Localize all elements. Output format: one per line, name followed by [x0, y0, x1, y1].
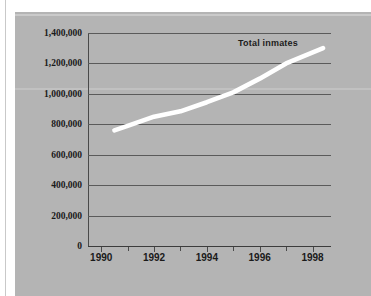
chart-figure: 1,400,0001,200,0001,000,000800,000600,00… [0, 0, 371, 296]
y-axis-tick-labels: 1,400,0001,200,0001,000,000800,000600,00… [18, 33, 82, 247]
x-axis-tick-label: 1998 [301, 252, 323, 264]
y-axis-tick-label: 1,000,000 [44, 89, 82, 99]
y-axis-tick-label: 0 [77, 241, 82, 251]
x-axis-tick-label: 1990 [90, 252, 112, 264]
x-axis-tick-minor [128, 247, 129, 251]
x-axis-tick-minor [180, 247, 181, 251]
page-edge-rule [5, 0, 6, 296]
series-annotation-label: Total inmates [238, 38, 298, 48]
y-axis-tick-label: 600,000 [51, 150, 82, 160]
series-polyline [114, 48, 323, 130]
x-axis-tick-labels: 19901992199419961998 [88, 252, 331, 268]
x-axis-tick-label: 1992 [143, 252, 165, 264]
plot-area [88, 33, 331, 246]
y-axis-tick-label: 200,000 [51, 211, 82, 221]
panel-highlight-streak-top [15, 14, 371, 16]
y-axis-tick-label: 800,000 [51, 119, 82, 129]
x-axis-tick-minor [286, 247, 287, 251]
series-total-inmates-line [88, 33, 331, 247]
x-axis-tick-minor [233, 247, 234, 251]
y-axis-tick-label: 400,000 [51, 180, 82, 190]
y-axis-tick-label: 1,400,000 [44, 28, 82, 38]
x-axis-tick-label: 1994 [196, 252, 218, 264]
y-axis-tick-label: 1,200,000 [44, 58, 82, 68]
x-axis-tick-label: 1996 [249, 252, 271, 264]
